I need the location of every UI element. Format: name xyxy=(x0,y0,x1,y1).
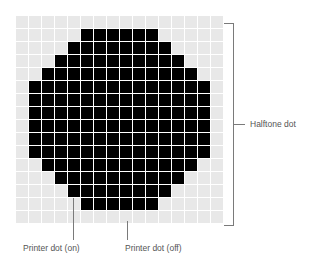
printer-dot-on xyxy=(55,172,68,185)
printer-dot-on xyxy=(94,159,107,172)
printer-dot-on xyxy=(81,133,94,146)
printer-dot-on xyxy=(81,55,94,68)
printer-dot-on xyxy=(81,185,94,198)
printer-dot-on xyxy=(81,120,94,133)
printer-dot-on xyxy=(120,29,133,42)
printer-dot-on xyxy=(185,133,198,146)
printer-dot-on xyxy=(42,68,55,81)
printer-dot-on xyxy=(94,81,107,94)
printer-dot-off xyxy=(29,55,42,68)
printer-dot-off xyxy=(55,29,68,42)
printer-dot-off xyxy=(16,94,29,107)
printer-dot-on xyxy=(172,68,185,81)
printer-dot-off-label: Printer dot (off) xyxy=(125,244,182,253)
printer-dot-on xyxy=(81,146,94,159)
printer-dot-off xyxy=(29,29,42,42)
printer-dot-on xyxy=(172,107,185,120)
printer-dot-on xyxy=(133,172,146,185)
printer-dot-off xyxy=(185,29,198,42)
printer-dot-on xyxy=(55,159,68,172)
printer-dot-off xyxy=(16,29,29,42)
printer-dot-off xyxy=(42,42,55,55)
printer-dot-on xyxy=(159,146,172,159)
printer-dot-off xyxy=(29,68,42,81)
printer-dot-off xyxy=(107,211,120,224)
halftone-bracket-bottom xyxy=(224,225,234,226)
printer-dot-on xyxy=(198,146,211,159)
printer-dot-on xyxy=(159,133,172,146)
printer-dot-off xyxy=(42,16,55,29)
printer-dot-off xyxy=(159,211,172,224)
printer-dot-on xyxy=(198,107,211,120)
printer-dot-off xyxy=(42,211,55,224)
printer-dot-on xyxy=(146,94,159,107)
printer-dot-on xyxy=(159,68,172,81)
printer-dot-off xyxy=(185,185,198,198)
printer-dot-off xyxy=(198,198,211,211)
printer-dot-on xyxy=(55,94,68,107)
printer-dot-on xyxy=(68,81,81,94)
printer-dot-on xyxy=(146,159,159,172)
printer-dot-on xyxy=(42,120,55,133)
printer-dot-on xyxy=(107,120,120,133)
printer-dot-off xyxy=(16,81,29,94)
printer-dot-on xyxy=(185,107,198,120)
printer-dot-off xyxy=(55,198,68,211)
printer-dot-on xyxy=(42,146,55,159)
printer-dot-on xyxy=(29,120,42,133)
printer-dot-on xyxy=(133,133,146,146)
printer-dot-off xyxy=(81,211,94,224)
printer-dot-off xyxy=(55,211,68,224)
printer-dot-on xyxy=(55,55,68,68)
printer-dot-on xyxy=(29,133,42,146)
printer-dot-off xyxy=(81,16,94,29)
printer-dot-on xyxy=(68,120,81,133)
printer-dot-off xyxy=(42,55,55,68)
printer-dot-off xyxy=(198,159,211,172)
printer-dot-off xyxy=(16,42,29,55)
printer-dot-on xyxy=(120,146,133,159)
printer-dot-on xyxy=(185,159,198,172)
printer-dot-off xyxy=(16,211,29,224)
printer-dot-on xyxy=(146,29,159,42)
printer-dot-off xyxy=(68,198,81,211)
printer-dot-off xyxy=(159,16,172,29)
printer-dot-on xyxy=(81,29,94,42)
printer-dot-on xyxy=(185,146,198,159)
printer-dot-on xyxy=(146,81,159,94)
printer-dot-off xyxy=(198,16,211,29)
printer-dot-off xyxy=(211,198,224,211)
halftone-dot-label: Halftone dot xyxy=(250,120,296,129)
printer-dot-off xyxy=(16,133,29,146)
printer-dot-on xyxy=(120,68,133,81)
printer-dot-off xyxy=(185,42,198,55)
printer-dot-on xyxy=(107,159,120,172)
printer-dot-off xyxy=(198,68,211,81)
printer-dot-off xyxy=(211,211,224,224)
printer-dot-on xyxy=(120,172,133,185)
printer-dot-off xyxy=(146,211,159,224)
printer-dot-on xyxy=(55,107,68,120)
printer-dot-on xyxy=(29,107,42,120)
printer-dot-off xyxy=(55,185,68,198)
printer-dot-on xyxy=(68,146,81,159)
printer-dot-on xyxy=(133,198,146,211)
printer-dot-on xyxy=(146,107,159,120)
printer-dot-off xyxy=(211,185,224,198)
printer-dot-off xyxy=(211,42,224,55)
printer-dot-off xyxy=(42,185,55,198)
printer-dot-off xyxy=(198,211,211,224)
printer-dot-on xyxy=(94,198,107,211)
printer-dot-on xyxy=(120,81,133,94)
printer-dot-on xyxy=(68,107,81,120)
printer-dot-off xyxy=(198,172,211,185)
printer-dot-off xyxy=(29,159,42,172)
printer-dot-on xyxy=(133,29,146,42)
printer-dot-on xyxy=(159,42,172,55)
printer-dot-on xyxy=(94,107,107,120)
printer-dot-on xyxy=(159,55,172,68)
printer-dot-off xyxy=(16,185,29,198)
printer-dot-on xyxy=(172,146,185,159)
printer-dot-on xyxy=(107,185,120,198)
printer-dot-on xyxy=(133,120,146,133)
